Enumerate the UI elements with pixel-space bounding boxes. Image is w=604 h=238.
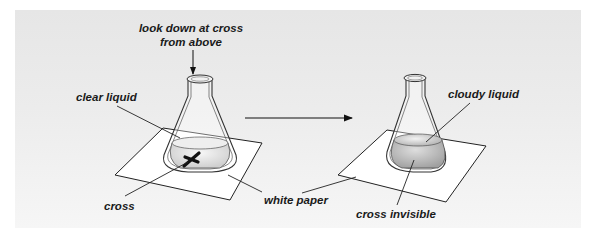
label-cross-invisible: cross invisible: [356, 208, 437, 220]
label-clear-liquid: clear liquid: [76, 91, 138, 103]
leader-clear-liquid: [117, 106, 180, 138]
label-cloudy-liquid: cloudy liquid: [448, 88, 520, 100]
label-cross: cross: [104, 200, 135, 212]
conical-flask-right: [387, 74, 446, 172]
conical-flask-left: [164, 75, 237, 172]
experiment-diagram: look down at cross from above clear liqu…: [0, 0, 604, 238]
label-white-paper: white paper: [264, 194, 328, 206]
left-setup: look down at cross from above clear liqu…: [76, 22, 328, 212]
leader-white-paper-right: [302, 177, 356, 193]
label-look-down-line2: from above: [160, 36, 223, 48]
label-look-down-line1: look down at cross: [139, 22, 243, 34]
right-setup: cloudy liquid cross invisible: [302, 74, 520, 220]
